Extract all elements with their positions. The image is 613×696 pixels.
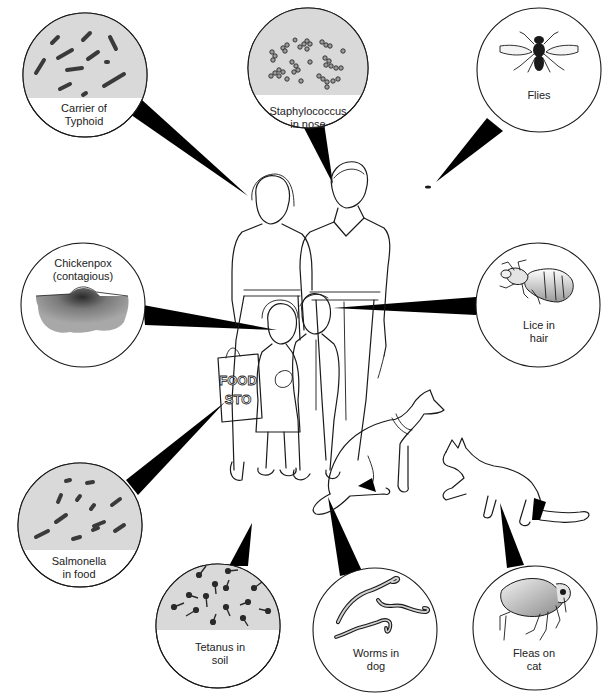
bag-text-line2: STO [225,392,252,407]
callout-staphylococcus-line2: in nose [290,118,325,130]
callout-fleas: Fleas on cat [473,566,597,690]
bag-text-line1: FOOD [219,373,257,388]
callout-fleas-line1: Fleas on [513,647,555,659]
callout-chickenpox-line1: Chickenpox [54,257,112,269]
pointer-flies [436,118,503,182]
callout-salmonella-line1: Salmonella [52,555,107,567]
callout-salmonella-line2: in food [62,568,95,580]
callout-lice: Lice in hair [476,243,600,367]
callout-typhoid-line2: Typhoid [65,115,104,127]
pointer-wedges [126,100,524,576]
dog-figure [313,390,444,514]
callout-flies-line1: Flies [527,89,551,101]
pointer-tetanus [229,523,252,566]
callout-chickenpox: Chickenpox (contagious) [21,243,145,367]
father-figure [300,162,390,460]
callout-lice-line1: Lice in [523,319,555,331]
pointer-staphylococcus [303,123,333,184]
callout-worms-line2: dog [367,660,385,672]
pointer-chickenpox [143,305,277,330]
boy-figure [293,294,340,480]
callout-flies: Flies [477,8,601,132]
callout-tetanus: Tetanus in soil [150,560,290,688]
cat-leg-shadow [532,498,546,520]
pointer-worms [328,497,362,576]
callout-fleas-line2: cat [527,660,542,672]
callout-lice-line2: hair [530,332,549,344]
callout-worms: Worms in dog [313,568,437,692]
callout-staphylococcus-line1: Staphylococcus [269,105,347,117]
fly-speck [425,186,431,189]
cat-figure [443,438,589,526]
callout-chickenpox-line2: (contagious) [53,270,114,282]
infection-sources-diagram: FOOD STO [0,0,613,696]
callout-typhoid: Carrier of Typhoid [20,10,150,137]
callout-typhoid-line1: Carrier of [61,102,108,114]
callout-staphylococcus: Staphylococcus in nose [245,5,375,130]
callout-salmonella: Salmonella in food [15,460,145,587]
callout-tetanus-line2: soil [212,654,229,666]
callout-tetanus-line1: Tetanus in [195,641,245,653]
callout-worms-line1: Worms in [353,647,399,659]
food-store-bag: FOOD STO [218,348,262,422]
pointer-fleas [500,503,524,568]
pointer-salmonella [126,402,225,495]
pointer-typhoid [127,100,248,196]
